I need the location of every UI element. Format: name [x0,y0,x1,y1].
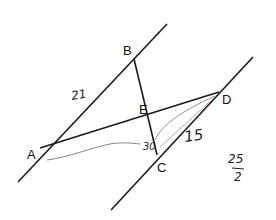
pencil-curve-AE [47,143,140,160]
point-label-C: C [157,160,166,175]
length-annotation-21: 21 [70,87,87,103]
point-label-E: E [139,102,148,117]
fraction-denominator: 2 [234,170,242,184]
point-label-A: A [27,147,36,162]
point-label-B: B [123,43,132,58]
length-annotation-30: 30 [143,141,156,152]
length-annotation-15: 15 [183,125,204,145]
geometry-diagram: B D E A C 21 15 30 25 2 [0,0,276,220]
lower-parallel-line [111,57,253,210]
point-label-D: D [222,92,231,107]
fraction-numerator: 25 [228,152,243,166]
fraction-bar [232,168,244,169]
